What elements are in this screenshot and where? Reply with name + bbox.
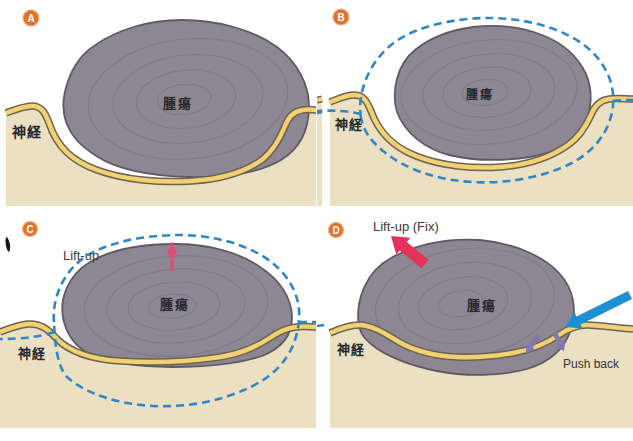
panel-a-edge-sliver bbox=[317, 99, 322, 206]
nerve-label: 神経 bbox=[335, 117, 363, 132]
tumor-label: 腫瘍 bbox=[466, 87, 494, 102]
lift-up-fix-label: Lift-up (Fix) bbox=[373, 219, 439, 234]
panel-a: 腫瘍 神経 A bbox=[0, 0, 316, 218]
panel-b: 腫瘍 神経 B bbox=[317, 0, 633, 218]
panel-badge-letter: A bbox=[27, 13, 34, 24]
nerve-label: 神経 bbox=[12, 124, 42, 140]
nerve-label: 神経 bbox=[18, 346, 46, 361]
panel-badge-letter: B bbox=[337, 12, 344, 23]
panel-c-edge-dash-sliver bbox=[317, 325, 324, 326]
tumor-label: 腫瘍 bbox=[163, 96, 193, 111]
push-back-label: Push back bbox=[563, 357, 620, 371]
lift-up-label: Lift-up bbox=[63, 248, 99, 263]
panel-c: Lift-up 腫瘍 神経 C bbox=[0, 218, 316, 441]
panel-badge-letter: D bbox=[332, 225, 339, 236]
figure-four-panel-diagram: 腫瘍 神経 A 腫瘍 神経 bbox=[0, 0, 633, 441]
panel-d: Lift-up (Fix) Push back 腫瘍 神経 D bbox=[317, 218, 633, 441]
stray-pen-mark bbox=[6, 237, 11, 252]
nerve-label: 神経 bbox=[337, 342, 365, 357]
panel-badge-letter: C bbox=[26, 224, 33, 235]
tumor-label: 腫瘍 bbox=[160, 297, 190, 312]
tumor-label: 腫瘍 bbox=[467, 298, 497, 313]
